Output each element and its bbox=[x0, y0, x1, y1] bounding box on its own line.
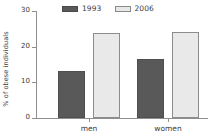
x-axis-line bbox=[34, 118, 208, 119]
x-tick-label-women: women bbox=[154, 124, 181, 133]
y-tick-label-20: 20 bbox=[21, 42, 30, 50]
bar-men-2006 bbox=[93, 33, 120, 118]
y-tick-label-30: 30 bbox=[21, 6, 30, 14]
y-axis-label: % of obese individuals bbox=[0, 0, 12, 138]
x-tick-men bbox=[89, 118, 90, 122]
bar-women-2006 bbox=[172, 32, 199, 118]
bar-men-1993 bbox=[58, 71, 85, 118]
y-tick-label-10: 10 bbox=[21, 77, 30, 85]
y-axis-line bbox=[36, 11, 37, 118]
x-tick-label-men: men bbox=[81, 124, 98, 133]
y-tick-30: 30 bbox=[32, 11, 36, 12]
bar-women-1993 bbox=[137, 59, 164, 118]
y-tick-0: 0 bbox=[32, 118, 36, 119]
x-tick-women bbox=[168, 118, 169, 122]
bar-chart: 1993 2006 % of obese individuals 30 20 1… bbox=[0, 0, 210, 138]
plot-area: 30 20 10 0 men women bbox=[36, 11, 208, 118]
y-tick-label-0: 0 bbox=[26, 113, 30, 121]
y-tick-10: 10 bbox=[32, 82, 36, 83]
y-tick-20: 20 bbox=[32, 47, 36, 48]
